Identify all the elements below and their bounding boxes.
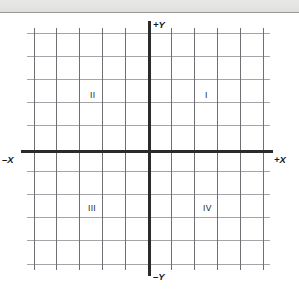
- axis-label-negative-x: –X: [2, 155, 14, 165]
- quadrant-label-i: I: [205, 91, 208, 100]
- quadrant-label-ii: II: [90, 91, 95, 100]
- quadrant-label-iv: IV: [203, 204, 212, 213]
- axis-label-negative-y: –Y: [153, 272, 165, 282]
- axis-label-positive-x: +X: [274, 155, 286, 165]
- coordinate-grid-graphic: [0, 0, 299, 298]
- axis-label-positive-y: +Y: [153, 20, 165, 30]
- coordinate-plane-figure: +Y –Y –X +X I II III IV: [0, 0, 299, 298]
- quadrant-label-iii: III: [88, 204, 96, 213]
